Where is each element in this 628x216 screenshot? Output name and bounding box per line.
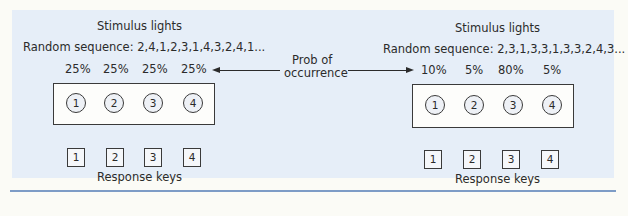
arrow-right-icon xyxy=(406,67,414,73)
right-light-1: 1 xyxy=(425,95,445,115)
right-prob-4: 5% xyxy=(543,63,561,77)
left-light-2: 2 xyxy=(104,93,124,113)
left-prob-4: 25% xyxy=(181,62,207,76)
left-light-3: 3 xyxy=(143,93,163,113)
left-key-4: 4 xyxy=(183,148,201,167)
left-key-3: 3 xyxy=(144,148,162,167)
right-light-2: 2 xyxy=(464,95,484,115)
left-light-4: 4 xyxy=(183,93,203,113)
right-title: Stimulus lights xyxy=(455,21,540,35)
bottom-rule xyxy=(10,190,616,192)
left-key-1: 1 xyxy=(67,148,85,167)
left-key-2: 2 xyxy=(106,148,124,167)
right-sequence: Random sequence: 2,3,1,3,3,1,3,3,2,4,3..… xyxy=(383,42,625,56)
right-keys-label: Response keys xyxy=(455,172,540,186)
right-prob-2: 5% xyxy=(465,63,483,77)
arrow-left-icon xyxy=(212,67,220,73)
left-title: Stimulus lights xyxy=(97,19,182,33)
right-prob-1: 10% xyxy=(421,63,447,77)
right-light-4: 4 xyxy=(542,95,562,115)
right-arrow-line xyxy=(348,70,408,71)
left-light-1: 1 xyxy=(66,93,86,113)
right-key-1: 1 xyxy=(424,150,442,169)
right-prob-3: 80% xyxy=(498,63,524,77)
prob-label-line1: Prob of xyxy=(292,53,332,67)
right-key-4: 4 xyxy=(541,150,559,169)
right-light-3: 3 xyxy=(503,95,523,115)
left-keys-label: Response keys xyxy=(97,170,182,184)
right-key-2: 2 xyxy=(463,150,481,169)
right-key-3: 3 xyxy=(502,150,520,169)
left-prob-2: 25% xyxy=(103,62,129,76)
left-sequence: Random sequence: 2,4,1,2,3,1,4,3,2,4,1..… xyxy=(23,40,265,54)
left-prob-3: 25% xyxy=(142,62,168,76)
left-arrow-line xyxy=(218,70,280,71)
left-prob-1: 25% xyxy=(65,62,91,76)
prob-label-line2: occurrence xyxy=(284,66,348,80)
